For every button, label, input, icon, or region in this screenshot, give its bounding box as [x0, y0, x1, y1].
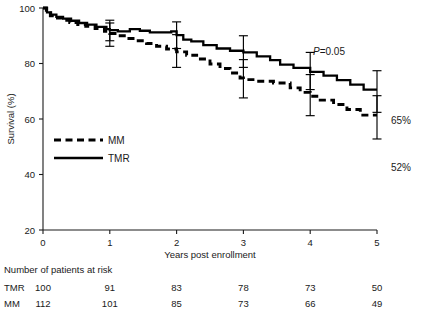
x-tick-label: 3 — [241, 237, 246, 248]
x-axis-title: Years post enrollment — [164, 249, 256, 260]
legend-label-tmr: TMR — [108, 153, 130, 164]
x-tick-label: 2 — [174, 237, 179, 248]
kaplan-meier-survival-figure: 20406080100 Survival (%) 012345 Years po… — [0, 0, 428, 315]
y-tick-label: 100 — [19, 3, 35, 14]
risk-row-label: MM — [4, 298, 20, 309]
risk-cell: 73 — [293, 282, 327, 293]
risk-row-label: TMR — [4, 282, 25, 293]
x-tick-label: 4 — [308, 237, 313, 248]
risk-cell: 85 — [160, 298, 194, 309]
risk-cell: 91 — [93, 282, 127, 293]
x-tick-label: 1 — [107, 237, 112, 248]
legend: MM TMR — [54, 135, 130, 164]
x-axis-ticks: 012345 — [40, 230, 379, 248]
y-axis-ticks: 20406080100 — [19, 3, 43, 236]
x-tick-label: 0 — [40, 237, 45, 248]
error-bar-mm — [373, 96, 382, 139]
risk-cell: 66 — [293, 298, 327, 309]
risk-cell: 49 — [360, 298, 394, 309]
error-bar-mm — [172, 35, 181, 68]
y-axis-title: Survival (%) — [5, 93, 16, 144]
risk-cell: 73 — [226, 298, 260, 309]
p-value-annotation: P=0.05 — [313, 46, 345, 57]
risk-cell: 78 — [226, 282, 260, 293]
table-row: TMR 1009183787350 — [0, 282, 428, 297]
y-tick-label: 60 — [24, 114, 35, 125]
risk-table-title: Number of patients at risk — [4, 264, 112, 275]
y-tick-label: 40 — [24, 169, 35, 180]
risk-cell: 83 — [160, 282, 194, 293]
legend-label-mm: MM — [108, 135, 125, 146]
risk-cell: 50 — [360, 282, 394, 293]
risk-cell: 101 — [93, 298, 127, 309]
p-value-number: =0.05 — [320, 46, 346, 57]
y-axis-group: 20406080100 Survival (%) — [5, 3, 43, 236]
x-axis-group: 012345 Years post enrollment — [40, 230, 379, 260]
series-curves-layer — [43, 8, 377, 115]
x-tick-label: 5 — [374, 237, 379, 248]
y-tick-label: 80 — [24, 58, 35, 69]
risk-cell: 112 — [26, 298, 60, 309]
tmr-endpoint-label: 65% — [391, 115, 411, 126]
risk-cell: 100 — [26, 282, 60, 293]
mm-endpoint-label: 52% — [391, 162, 411, 173]
y-tick-label: 20 — [24, 225, 35, 236]
table-row: MM 11210185736649 — [0, 298, 428, 313]
